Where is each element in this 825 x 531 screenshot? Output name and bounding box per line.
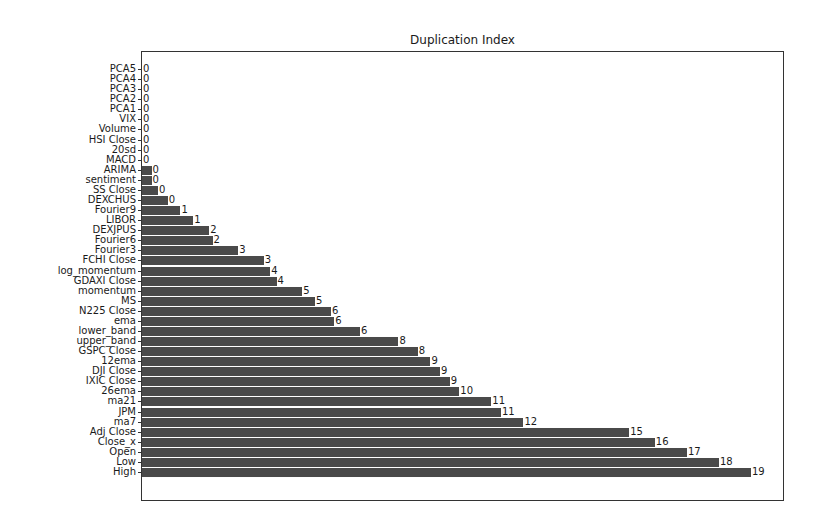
bar <box>142 246 238 255</box>
y-tick-mark <box>138 129 142 130</box>
bar <box>142 357 430 366</box>
bar <box>142 397 491 406</box>
bar <box>142 428 629 437</box>
bar <box>142 226 209 235</box>
bar <box>142 337 398 346</box>
bar <box>142 367 440 376</box>
bar <box>142 216 193 225</box>
bar <box>142 307 331 316</box>
bar <box>142 287 302 296</box>
bar <box>142 277 277 286</box>
bar <box>142 377 450 386</box>
bar <box>142 317 334 326</box>
y-tick-label: High <box>113 466 136 478</box>
bar-value-label: 19 <box>752 466 765 478</box>
y-tick-mark <box>138 99 142 100</box>
bar-row: High19 <box>142 467 783 478</box>
bar <box>142 196 168 205</box>
plot-area: PCA50PCA40PCA30PCA20PCA10VIX0Volume0HSI … <box>141 51 784 501</box>
bar <box>142 206 180 215</box>
bar <box>142 347 418 356</box>
y-tick-mark <box>138 119 142 120</box>
y-tick-mark <box>138 79 142 80</box>
y-tick-mark <box>138 140 142 141</box>
bar <box>142 236 213 245</box>
bar <box>142 468 751 477</box>
y-tick-mark <box>138 69 142 70</box>
y-tick-mark <box>138 89 142 90</box>
bar <box>142 256 264 265</box>
y-tick-mark <box>138 150 142 151</box>
bar <box>142 166 152 175</box>
bar <box>142 448 687 457</box>
bar <box>142 186 158 195</box>
bar <box>142 418 523 427</box>
bar <box>142 408 501 417</box>
bar <box>142 176 152 185</box>
bar <box>142 387 459 396</box>
chart-title: Duplication Index <box>141 33 784 47</box>
bar <box>142 267 270 276</box>
bar <box>142 297 315 306</box>
bar <box>142 327 360 336</box>
y-tick-mark <box>138 109 142 110</box>
bar <box>142 438 655 447</box>
bar <box>142 458 719 467</box>
y-tick-mark <box>138 160 142 161</box>
